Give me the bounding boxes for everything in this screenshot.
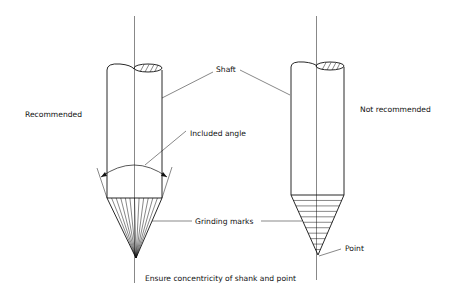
included-angle-leader bbox=[145, 131, 186, 165]
diagram-canvas: Recommended Not recommended Shaft Includ… bbox=[0, 0, 466, 299]
leader-lines bbox=[145, 70, 341, 256]
angle-arrow-left bbox=[101, 172, 107, 177]
right-cone-outline bbox=[291, 195, 344, 255]
shaft-leader-right bbox=[240, 70, 290, 95]
point-leader bbox=[319, 249, 341, 256]
included-angle-arc bbox=[101, 165, 167, 177]
left-end-hatch bbox=[140, 65, 158, 73]
right-shaft-outline bbox=[291, 62, 344, 195]
angle-extension-left bbox=[97, 168, 107, 198]
recommended-electrode bbox=[97, 16, 172, 283]
label-included-angle: Included angle bbox=[190, 129, 246, 138]
shaft-leader-left bbox=[162, 72, 213, 98]
angle-extension-right bbox=[162, 167, 172, 198]
electrode-grinding-diagram: Recommended Not recommended Shaft Includ… bbox=[0, 0, 466, 299]
grinding-mark-line bbox=[136, 198, 148, 258]
grinding-mark-line bbox=[136, 198, 157, 258]
circumferential-grinding-marks bbox=[293, 200, 341, 249]
label-concentricity: Ensure concentricity of shank and point bbox=[145, 274, 296, 283]
label-recommended: Recommended bbox=[25, 110, 82, 119]
label-shaft: Shaft bbox=[216, 65, 236, 74]
grinding-mark-line bbox=[121, 198, 136, 258]
grinding-mark-line bbox=[112, 198, 136, 258]
label-grinding-marks: Grinding marks bbox=[195, 217, 253, 226]
label-point: Point bbox=[345, 244, 364, 253]
right-end-hatch bbox=[322, 63, 340, 71]
not-recommended-electrode bbox=[291, 16, 344, 280]
label-not-recommended: Not recommended bbox=[360, 105, 431, 114]
